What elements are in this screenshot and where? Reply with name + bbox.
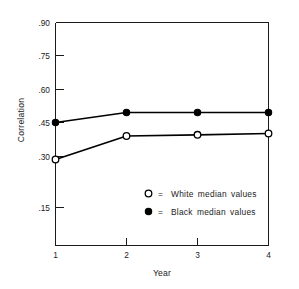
chart-figure: .90 .75 .60 .45 .30 .15 1 2 3 4 Year Cor…	[0, 0, 299, 289]
y-tick-label-90: .90	[38, 18, 50, 28]
x-tick-label-4: 4	[266, 250, 271, 260]
y-axis-title: Correlation	[16, 98, 26, 142]
data-point-black-year4	[265, 109, 271, 115]
y-tick-label-60: .60	[38, 85, 50, 95]
y-tick-label-30: .30	[38, 152, 50, 162]
legend-label-black: Black median values	[171, 207, 256, 217]
data-point-white-year3	[194, 132, 201, 139]
legend-separator-black: =	[158, 207, 163, 217]
x-tick-label-2: 2	[124, 250, 129, 260]
y-tick-label-45: .45	[38, 118, 50, 128]
x-tick-label-1: 1	[53, 250, 58, 260]
x-tick-label-3: 3	[195, 250, 200, 260]
data-point-black-year2	[123, 109, 129, 115]
data-point-black-year3	[194, 109, 200, 115]
data-point-black-year1	[52, 119, 58, 125]
legend-label-white: White median values	[171, 189, 257, 199]
x-axis-title: Year	[153, 268, 171, 278]
data-point-white-year2	[123, 133, 130, 140]
series-line-black	[56, 113, 269, 123]
legend-marker-open-circle-icon	[145, 190, 152, 197]
legend-item-black: = Black median values	[145, 207, 255, 217]
y-tick-label-15: .15	[38, 203, 50, 213]
legend-marker-filled-circle-icon	[145, 208, 151, 214]
legend-separator-white: =	[158, 189, 163, 199]
series-line-white	[56, 134, 269, 160]
data-point-white-year4	[265, 130, 272, 137]
y-tick-label-75: .75	[38, 51, 50, 61]
legend: = White median values = Black median val…	[145, 189, 257, 217]
data-point-white-year1	[52, 156, 59, 163]
legend-item-white: = White median values	[145, 189, 257, 199]
line-chart: .90 .75 .60 .45 .30 .15 1 2 3 4 Year Cor…	[0, 0, 299, 289]
